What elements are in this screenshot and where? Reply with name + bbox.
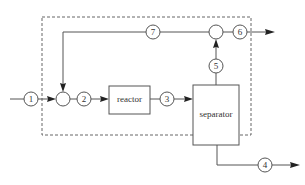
stream-6-label: 6 xyxy=(238,27,243,37)
separator-label: separator xyxy=(200,109,233,119)
stream-6: 6 xyxy=(223,25,275,39)
stream-4: 4 xyxy=(217,145,300,172)
stream-7-label: 7 xyxy=(151,27,156,37)
stream-2: 2 xyxy=(70,92,109,106)
top-mixer xyxy=(209,25,223,39)
arrow-right-icon xyxy=(184,96,193,102)
reactor-unit: reactor xyxy=(109,86,150,114)
arrow-right-icon xyxy=(265,29,275,35)
separator-unit: separator xyxy=(193,85,239,145)
arrow-up-icon xyxy=(213,39,219,48)
stream-5-label: 5 xyxy=(214,61,219,71)
stream-1-label: 1 xyxy=(29,94,34,104)
arrow-down-icon xyxy=(60,83,66,92)
feed-mixer xyxy=(56,92,70,106)
arrow-right-icon xyxy=(290,162,300,168)
stream-1: 1 xyxy=(10,92,56,106)
arrow-right-icon xyxy=(100,96,109,102)
arrow-right-icon xyxy=(47,96,56,102)
stream-5: 5 xyxy=(209,39,223,85)
stream-7: 7 xyxy=(60,25,209,92)
reactor-label: reactor xyxy=(117,94,142,104)
stream-2-label: 2 xyxy=(82,94,87,104)
stream-4-label: 4 xyxy=(263,160,268,170)
stream-3: 3 xyxy=(150,92,193,106)
process-flow-diagram: 1 2 reactor 3 separator 5 xyxy=(0,0,305,185)
stream-3-label: 3 xyxy=(165,94,170,104)
